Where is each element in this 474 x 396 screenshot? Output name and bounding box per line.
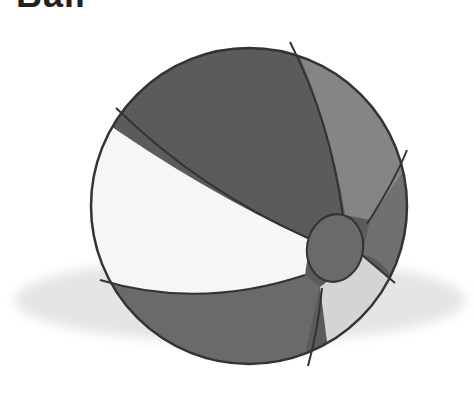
beach-ball-illustration [0, 0, 474, 396]
